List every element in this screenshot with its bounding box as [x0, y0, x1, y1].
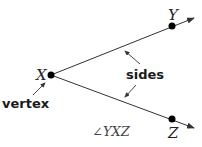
vertex-label: vertex — [2, 96, 50, 111]
label-z: Z — [167, 124, 179, 142]
angle-label: ∠YXZ — [92, 124, 131, 139]
point-x — [48, 72, 55, 79]
sides-pointer-upper — [125, 51, 140, 64]
angle-figure: X Y Z sides vertex ∠YXZ — [0, 0, 202, 147]
sides-label: sides — [126, 67, 164, 82]
vertex-pointer — [33, 83, 45, 95]
angle-diagram: X Y Z sides vertex ∠YXZ — [0, 0, 202, 147]
sides-pointer-lower — [125, 85, 136, 97]
label-x: X — [35, 66, 48, 84]
label-y: Y — [168, 6, 180, 24]
point-z — [169, 116, 176, 123]
